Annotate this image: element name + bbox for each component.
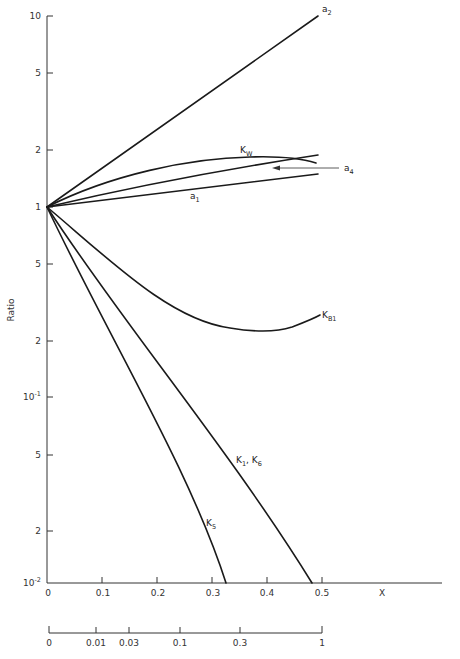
y-tick-0.1: 10-1 bbox=[23, 390, 41, 402]
x-tick-0: 0 bbox=[45, 588, 51, 598]
y-tick-labels: 10 5 2 1 5 2 10-1 5 2 10-2 bbox=[23, 11, 41, 588]
y-axis bbox=[47, 16, 53, 583]
label-a2: a2 bbox=[322, 4, 332, 17]
label-kw: KW bbox=[240, 145, 253, 158]
label-k1-k6: K1, K6 bbox=[236, 455, 262, 468]
x2-tick-0.1: 0.1 bbox=[173, 638, 187, 648]
y-tick-2: 2 bbox=[35, 145, 41, 155]
x-tick-labels: 0 0.1 0.2 0.3 0.4 0.5 bbox=[45, 588, 329, 598]
y-tick-10: 10 bbox=[30, 11, 42, 21]
x-tick-0.3: 0.3 bbox=[206, 588, 220, 598]
curve-kw bbox=[47, 157, 316, 207]
y-tick-0.01: 10-2 bbox=[23, 576, 41, 588]
curve-k5 bbox=[47, 207, 226, 583]
curve-a4 bbox=[47, 155, 318, 207]
line-chart: 10 5 2 1 5 2 10-1 5 2 10-2 Ratio 0 0.1 0… bbox=[0, 0, 460, 659]
x-axis bbox=[47, 577, 442, 583]
curves bbox=[47, 16, 320, 583]
x2-tick-0.3: 0.3 bbox=[233, 638, 247, 648]
x2-tick-0.01: 0.01 bbox=[86, 638, 106, 648]
x-tick-0.1: 0.1 bbox=[96, 588, 110, 598]
label-a1: a1 bbox=[190, 191, 200, 204]
y-axis-title: Ratio bbox=[6, 298, 16, 322]
curve-labels: a2 KW a4 a1 KB1 K1, K6 K5 bbox=[190, 4, 354, 531]
y-tick-0.2: 2 bbox=[35, 336, 41, 346]
a4-arrow bbox=[272, 166, 339, 171]
x-axis-title: X bbox=[379, 588, 385, 598]
x2-tick-1: 1 bbox=[319, 638, 325, 648]
secondary-x-axis bbox=[49, 626, 322, 633]
y-tick-0.05: 5 bbox=[35, 450, 41, 460]
secondary-x-tick-labels: 0 0.01 0.03 0.1 0.3 1 bbox=[46, 638, 325, 648]
x-tick-0.2: 0.2 bbox=[151, 588, 165, 598]
label-k5: K5 bbox=[206, 518, 216, 531]
x-tick-0.4: 0.4 bbox=[260, 588, 275, 598]
x2-tick-0.03: 0.03 bbox=[119, 638, 139, 648]
y-tick-0.02: 2 bbox=[35, 526, 41, 536]
label-a4: a4 bbox=[344, 163, 354, 176]
curve-k1-k6 bbox=[47, 207, 312, 583]
y-tick-0.5: 5 bbox=[35, 259, 41, 269]
label-kb1: KB1 bbox=[322, 310, 337, 323]
y-tick-5: 5 bbox=[35, 68, 41, 78]
x-tick-0.5: 0.5 bbox=[315, 588, 329, 598]
y-tick-1: 1 bbox=[35, 202, 41, 212]
curve-kb1 bbox=[47, 207, 320, 331]
x2-tick-0: 0 bbox=[46, 638, 52, 648]
